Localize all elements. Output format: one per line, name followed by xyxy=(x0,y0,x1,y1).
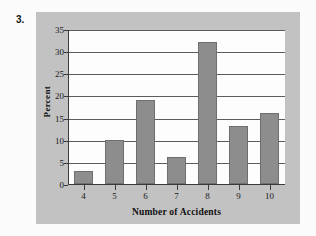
y-axis-title: Percent xyxy=(42,86,54,117)
x-axis-tick-label: 9 xyxy=(236,191,241,201)
x-axis-tick-mark xyxy=(208,185,209,190)
x-axis-title: Number of Accidents xyxy=(68,207,285,217)
bar xyxy=(74,171,93,184)
x-axis-tick-label: 4 xyxy=(81,191,86,201)
y-axis-tick-label: 25 xyxy=(55,69,64,79)
problem-number-label: 3. xyxy=(16,14,24,25)
bar-series xyxy=(68,30,285,185)
x-axis-tick-label: 6 xyxy=(143,191,148,201)
y-axis-tick-label: 10 xyxy=(55,136,64,146)
bar xyxy=(260,113,279,184)
y-axis-tick-label: 30 xyxy=(55,47,64,57)
x-axis-tick-mark xyxy=(146,185,147,190)
x-axis-tick-mark xyxy=(177,185,178,190)
x-axis-tick-labels: 45678910 xyxy=(68,191,285,205)
x-axis-tick-label: 7 xyxy=(174,191,179,201)
x-axis-tick-mark xyxy=(115,185,116,190)
bar xyxy=(105,140,124,184)
x-axis-tick-mark xyxy=(239,185,240,190)
bar xyxy=(136,100,155,184)
bar xyxy=(167,157,186,184)
x-axis-tick-mark xyxy=(84,185,85,190)
y-axis-tick-label: 20 xyxy=(55,91,64,101)
x-axis-tick-mark xyxy=(270,185,271,190)
x-axis-tick-label: 5 xyxy=(112,191,117,201)
x-axis-tick-label: 8 xyxy=(205,191,210,201)
y-axis-tick-label: 15 xyxy=(55,114,64,124)
page-background: 3. 05101520253035 Percent 45678910 Numbe… xyxy=(0,0,316,236)
bar xyxy=(229,126,248,184)
y-axis-tick-label: 35 xyxy=(55,25,64,35)
bar xyxy=(198,42,217,184)
x-axis-tick-label: 10 xyxy=(265,191,274,201)
